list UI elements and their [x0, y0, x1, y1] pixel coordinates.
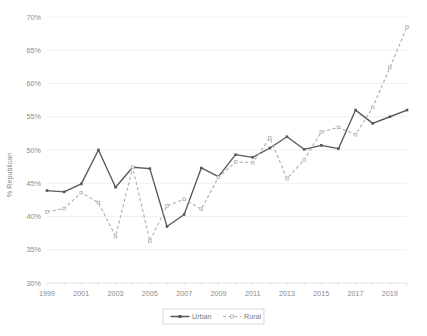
- data-point-urban-1999: [46, 189, 49, 192]
- data-point-rural-2018: [371, 106, 374, 109]
- legend-marker-urban: [179, 315, 182, 318]
- data-point-urban-2014: [303, 148, 306, 151]
- y-tick-label-55: 55%: [27, 112, 42, 121]
- data-point-rural-1999: [46, 211, 49, 214]
- data-point-rural-2013: [286, 177, 289, 180]
- data-point-rural-2004: [131, 166, 134, 169]
- data-point-urban-2013: [286, 135, 289, 138]
- data-point-rural-2017: [354, 133, 357, 136]
- x-tick-label-2003: 2003: [108, 289, 124, 298]
- data-point-urban-2018: [371, 122, 374, 125]
- x-tick-label-1999: 1999: [39, 289, 55, 298]
- data-point-rural-2006: [166, 205, 169, 208]
- data-point-rural-2007: [183, 198, 186, 201]
- y-tick-label-50: 50%: [27, 146, 42, 155]
- data-point-urban-2006: [166, 225, 169, 228]
- data-point-urban-2008: [200, 167, 203, 170]
- x-tick-label-2015: 2015: [313, 289, 329, 298]
- data-point-rural-2019: [389, 66, 392, 69]
- y-axis-title-label: % Republican: [5, 153, 14, 197]
- data-point-urban-2020: [406, 109, 409, 112]
- data-point-urban-2007: [183, 213, 186, 216]
- x-tick-label-2013: 2013: [279, 289, 295, 298]
- data-point-urban-2001: [80, 183, 83, 186]
- chart-legend: UrbanRural: [163, 309, 264, 324]
- y-axis-tick-labels: 30%35%40%45%50%55%60%65%70%: [27, 13, 42, 288]
- data-point-rural-2001: [80, 191, 83, 194]
- data-point-rural-2011: [251, 161, 254, 164]
- data-point-urban-2005: [149, 167, 152, 170]
- x-tick-label-2001: 2001: [73, 289, 89, 298]
- data-point-urban-2000: [63, 191, 66, 194]
- data-point-urban-2010: [234, 153, 237, 156]
- x-tick-label-2017: 2017: [348, 289, 364, 298]
- data-point-rural-2015: [320, 131, 323, 134]
- data-point-rural-2008: [200, 208, 203, 211]
- legend-label-urban: Urban: [192, 312, 212, 321]
- line-chart: 30%35%40%45%50%55%60%65%70% 199920012003…: [0, 0, 427, 336]
- data-point-rural-2003: [114, 235, 117, 238]
- x-tick-label-2019: 2019: [382, 289, 398, 298]
- x-tick-label-2007: 2007: [176, 289, 192, 298]
- y-tick-label-65: 65%: [27, 46, 42, 55]
- data-point-rural-2020: [406, 26, 409, 29]
- data-point-urban-2012: [269, 147, 272, 150]
- data-point-rural-2012: [269, 137, 272, 140]
- legend-label-rural: Rural: [244, 312, 262, 321]
- x-tick-label-2009: 2009: [210, 289, 226, 298]
- y-tick-label-45: 45%: [27, 179, 42, 188]
- legend-marker-rural: [231, 315, 234, 318]
- data-point-urban-2017: [354, 109, 357, 112]
- y-tick-label-30: 30%: [27, 279, 42, 288]
- x-tick-label-2011: 2011: [245, 289, 260, 298]
- data-point-rural-2002: [97, 201, 100, 204]
- y-tick-label-35: 35%: [27, 245, 42, 254]
- y-axis-title: % Republican: [5, 153, 14, 197]
- data-point-urban-2016: [337, 147, 340, 150]
- data-point-urban-2002: [97, 149, 100, 152]
- y-tick-label-60: 60%: [27, 79, 42, 88]
- data-point-rural-2005: [149, 240, 152, 243]
- data-point-urban-2011: [251, 156, 254, 159]
- x-tick-label-2005: 2005: [142, 289, 158, 298]
- data-point-rural-2000: [63, 207, 66, 210]
- data-point-rural-2010: [234, 161, 237, 164]
- data-point-urban-2019: [389, 115, 392, 118]
- y-tick-label-70: 70%: [27, 13, 42, 22]
- data-point-rural-2016: [337, 126, 340, 129]
- data-point-rural-2009: [217, 176, 220, 179]
- data-point-urban-2015: [320, 144, 323, 147]
- chart-container: 30%35%40%45%50%55%60%65%70% 199920012003…: [0, 0, 427, 336]
- data-point-rural-2014: [303, 159, 306, 162]
- y-tick-label-40: 40%: [27, 212, 42, 221]
- data-point-urban-2003: [114, 186, 117, 189]
